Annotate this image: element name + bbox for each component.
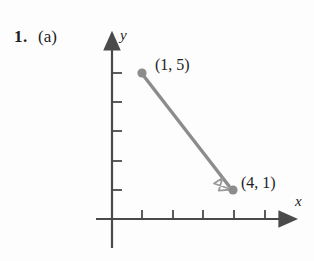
x-axis-ticks (142, 210, 265, 219)
point-label-head: (4, 1) (241, 174, 276, 192)
y-axis-ticks (112, 73, 122, 190)
figure-page: 1. (a) y x (1, 5) (4, 1) (0, 0, 314, 261)
vector-segment (143, 75, 229, 186)
point-label-tail: (1, 5) (155, 56, 190, 74)
point-marker-head (228, 185, 237, 194)
problem-number: 1. (14, 27, 28, 47)
point-marker-tail (137, 68, 146, 77)
part-label: (a) (38, 27, 57, 47)
x-axis-label: x (295, 193, 302, 210)
y-axis-label: y (120, 27, 127, 44)
